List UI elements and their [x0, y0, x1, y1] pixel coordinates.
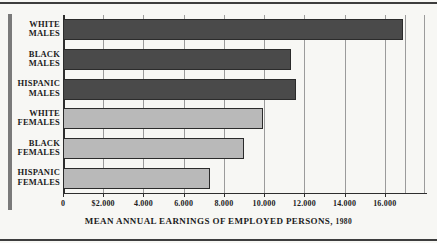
- tick-label-14000: 14.000: [333, 199, 356, 208]
- gridline-12000: [304, 15, 305, 193]
- tick-label-8000: 8.000: [214, 199, 233, 208]
- plot-area: [63, 15, 425, 193]
- bar-row: [63, 79, 425, 100]
- gridline-4000: [143, 15, 144, 193]
- category-label-black-males: BLACKMALES: [2, 50, 60, 69]
- tick-label-2000: $2.000: [92, 199, 115, 208]
- bar-black-females: [63, 138, 244, 159]
- gridline-0: [63, 15, 65, 193]
- tick-mark-4000: [143, 193, 144, 197]
- category-label-line: FEMALES: [2, 148, 60, 158]
- category-label-line: FEMALES: [2, 178, 60, 188]
- category-label-white-females: WHITEFEMALES: [2, 109, 60, 128]
- top-rule: [0, 2, 437, 4]
- category-label-hispanic-females: HISPANICFEMALES: [2, 168, 60, 187]
- gridline-10000: [264, 15, 265, 193]
- bar-white-females: [63, 108, 263, 129]
- gridline-6000: [184, 15, 185, 193]
- category-labels: WHITEMALESBLACKMALESHISPANICMALESWHITEFE…: [0, 15, 60, 193]
- tick-mark-0: [63, 193, 64, 197]
- bar-row: [63, 108, 425, 129]
- tick-label-0: 0: [61, 199, 65, 208]
- bar-row: [63, 49, 425, 70]
- category-label-line: FEMALES: [2, 118, 60, 128]
- tick-mark-12000: [304, 193, 305, 197]
- tick-mark-16000: [385, 193, 386, 197]
- bar-hispanic-males: [63, 79, 296, 100]
- chart-title-year: 1980: [336, 217, 353, 226]
- chart-figure: WHITEMALESBLACKMALESHISPANICMALESWHITEFE…: [0, 0, 437, 243]
- tick-mark-2000: [103, 193, 104, 197]
- category-label-line: MALES: [2, 59, 60, 69]
- gridline-16000: [385, 15, 386, 193]
- gridline-8000: [224, 15, 225, 193]
- tick-label-12000: 12.000: [293, 199, 316, 208]
- tick-mark-10000: [264, 193, 265, 197]
- tick-label-16000: 16.000: [373, 199, 396, 208]
- tick-label-6000: 6.000: [174, 199, 193, 208]
- tick-label-10000: 10.000: [253, 199, 276, 208]
- category-label-hispanic-males: HISPANICMALES: [2, 79, 60, 98]
- bar-row: [63, 138, 425, 159]
- category-label-line: MALES: [2, 89, 60, 99]
- tick-mark-6000: [184, 193, 185, 197]
- bottom-rule: [0, 239, 437, 241]
- category-label-black-females: BLACKFEMALES: [2, 139, 60, 158]
- bar-row: [63, 19, 425, 40]
- gridline-14000: [345, 15, 346, 193]
- x-axis-baseline: [63, 193, 427, 194]
- bar-row: [63, 168, 425, 189]
- gridline-17000: [405, 15, 406, 193]
- tick-label-4000: 4.000: [134, 199, 153, 208]
- tick-mark-8000: [224, 193, 225, 197]
- category-label-line: MALES: [2, 29, 60, 39]
- bar-black-males: [63, 49, 291, 70]
- gridline-18000: [424, 15, 425, 193]
- tick-mark-14000: [345, 193, 346, 197]
- bar-hispanic-females: [63, 168, 210, 189]
- chart-title-main: MEAN ANNUAL EARNINGS OF EMPLOYED PERSONS…: [85, 216, 333, 226]
- chart-title: MEAN ANNUAL EARNINGS OF EMPLOYED PERSONS…: [0, 216, 437, 226]
- gridline-2000: [103, 15, 104, 193]
- bar-white-males: [63, 19, 403, 40]
- category-label-white-males: WHITEMALES: [2, 20, 60, 39]
